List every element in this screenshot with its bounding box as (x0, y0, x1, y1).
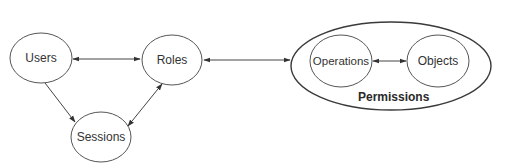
node-users: Users (10, 33, 72, 83)
node-roles: Roles (142, 35, 202, 85)
node-sessions: Sessions (71, 112, 131, 162)
roles-label: Roles (157, 53, 188, 67)
users-label: Users (25, 51, 56, 65)
permissions-label: Permissions (358, 90, 430, 104)
sessions-label: Sessions (77, 130, 126, 144)
operations-label: Operations (313, 55, 370, 67)
objects-label: Objects (418, 54, 459, 68)
node-objects: Objects (407, 35, 469, 87)
node-operations: Operations (310, 35, 372, 87)
rbac-diagram: Permissions Users Roles Sessions Operati… (0, 0, 505, 167)
edge-sessions-roles (128, 84, 162, 126)
edge-users-sessions (45, 83, 75, 122)
